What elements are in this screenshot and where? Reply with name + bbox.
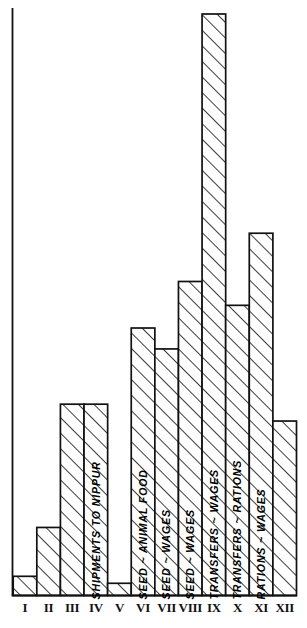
x-tick-label-ii: II xyxy=(37,600,61,616)
bar-label-vii: SEED ~ WAGES xyxy=(161,509,172,599)
bar-chart: IIIIIIIVVVIVIIVIIIIXXXIXII SHIPMENTS TO … xyxy=(0,0,307,628)
bar xyxy=(13,576,37,595)
x-tick-label-iv: IV xyxy=(84,600,108,616)
bar-label-iv: SHIPMENTS TO NIPPUR xyxy=(90,461,101,599)
x-tick-label-i: I xyxy=(13,600,37,616)
x-tick-label-vii: VII xyxy=(155,600,179,616)
x-axis-tick-labels: IIIIIIIVVVIVIIVIIIIXXXIXII xyxy=(0,600,307,624)
x-tick-label-xii: XII xyxy=(273,600,297,616)
bar xyxy=(108,583,132,595)
x-tick-label-vi: VI xyxy=(131,600,155,616)
bar-label-xi: RATIONS ~ WAGES xyxy=(255,488,266,599)
bar xyxy=(60,404,84,595)
x-tick-label-viii: VIII xyxy=(178,600,202,616)
bar-label-vi: SEED ~ ANIMAL FOOD xyxy=(137,469,148,599)
bar-label-ix: TRANSFERS ~ WAGES xyxy=(208,468,219,599)
bar xyxy=(273,421,297,595)
bar-label-x: TRANSFERS ~ RATIONS xyxy=(232,459,243,599)
x-tick-label-iii: III xyxy=(60,600,84,616)
x-tick-label-xi: XI xyxy=(249,600,273,616)
bar-label-viii: SEED ~ WAGES xyxy=(184,509,195,599)
bar xyxy=(37,527,61,595)
x-tick-label-ix: IX xyxy=(202,600,226,616)
x-tick-label-x: X xyxy=(226,600,250,616)
x-tick-label-v: V xyxy=(108,600,132,616)
